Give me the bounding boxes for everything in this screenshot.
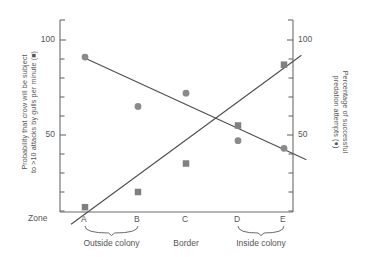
data-point-circle-A xyxy=(82,54,89,61)
data-point-circle-D xyxy=(235,137,242,144)
data-point-square-C xyxy=(183,160,190,167)
trendline-circle xyxy=(83,57,307,160)
zone-label-C: C xyxy=(182,214,188,224)
trendline-square xyxy=(71,55,301,224)
chart-figure: Probability that crow will be subject to… xyxy=(0,0,366,257)
zone-label-B: B xyxy=(134,214,140,224)
data-point-square-B xyxy=(135,189,142,196)
zone-bracket-inside-colony xyxy=(238,226,284,236)
left-axis-tick-label: 50 xyxy=(35,129,55,139)
trendlines-group xyxy=(71,55,306,224)
zone-label-E: E xyxy=(280,214,286,224)
right-axis-tick-label: 100 xyxy=(298,34,312,44)
zone-group-label-border: Border xyxy=(153,238,219,248)
zone-label-A: A xyxy=(81,214,87,224)
zone-group-label-inside-colony: Inside colony xyxy=(228,238,294,248)
data-point-circle-C xyxy=(183,90,190,97)
zone-label-D: D xyxy=(234,214,240,224)
right-axis-tick-label: 50 xyxy=(298,129,307,139)
zone-brackets-group xyxy=(85,226,284,236)
data-point-circle-E xyxy=(281,145,288,152)
data-point-square-E xyxy=(281,61,288,67)
axes-group xyxy=(60,20,293,212)
data-point-square-D xyxy=(235,122,242,129)
zone-bracket-outside-colony xyxy=(85,226,138,236)
data-point-square-A xyxy=(82,204,89,211)
zone-group-label-outside-colony: Outside colony xyxy=(79,238,145,248)
left-axis-tick-label: 100 xyxy=(35,34,55,44)
data-points-group xyxy=(82,54,288,211)
data-point-circle-B xyxy=(135,103,142,110)
